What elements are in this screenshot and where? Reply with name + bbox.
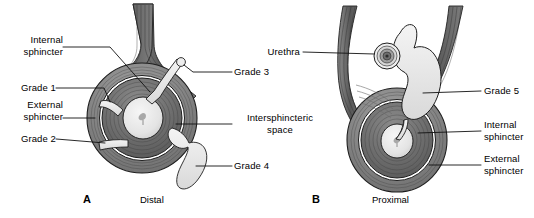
label-grade-2: Grade 2: [5, 133, 56, 145]
label-grade-5: Grade 5: [484, 85, 534, 97]
anal-lumen-b: [381, 124, 413, 158]
fistula-grades-figure: Internal sphincter Grade 1 External sphi…: [0, 0, 534, 218]
panel-b-illustration: [338, 6, 463, 192]
label-grade-1: Grade 1: [5, 82, 56, 94]
label-external-sphincter-b: External sphincter: [484, 153, 534, 176]
label-grade-4: Grade 4: [234, 160, 304, 172]
urethra-b: [374, 43, 400, 69]
panel-letter-a: A: [83, 193, 91, 205]
panel-caption-b: Proximal: [372, 194, 409, 205]
anatomical-illustration: [0, 0, 534, 218]
leader-grade-3-a: [184, 65, 232, 72]
label-intersphincteric-space: Intersphincteric space: [234, 112, 326, 135]
label-urethra: Urethra: [238, 46, 300, 58]
label-internal-sphincter-a: Internal sphincter: [5, 34, 63, 57]
panel-letter-b: B: [312, 193, 320, 205]
panel-a-illustration: [87, 4, 207, 189]
label-internal-sphincter-b: Internal sphincter: [484, 119, 534, 142]
panel-caption-a: Distal: [140, 194, 164, 205]
anal-lumen-a: [123, 97, 163, 139]
label-grade-3: Grade 3: [234, 66, 304, 78]
label-external-sphincter-a: External sphincter: [5, 99, 63, 122]
